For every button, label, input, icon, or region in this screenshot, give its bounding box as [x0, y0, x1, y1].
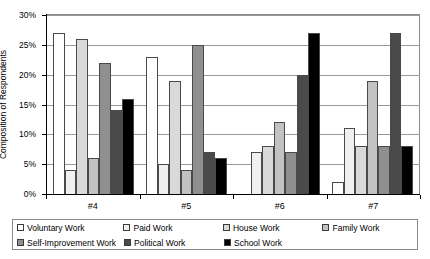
bar: [367, 81, 379, 194]
y-tick-label: 15%: [19, 100, 36, 109]
legend-row-1: Voluntary WorkPaid WorkHouse WorkFamily …: [13, 220, 417, 235]
legend-label: Voluntary Work: [27, 223, 84, 233]
bar: [88, 158, 100, 194]
bar: [262, 146, 274, 194]
bar: [99, 63, 111, 194]
legend-item[interactable]: Voluntary Work: [17, 223, 123, 233]
chart-legend: Voluntary WorkPaid WorkHouse WorkFamily …: [12, 219, 418, 250]
x-tick-label: #4: [46, 199, 140, 213]
legend-label: Family Work: [332, 223, 379, 233]
bar: [332, 182, 344, 194]
bar: [401, 146, 413, 194]
bar: [76, 39, 88, 194]
bar: [65, 170, 77, 194]
bar: [390, 33, 402, 194]
legend-label: Political Work: [134, 238, 185, 248]
x-tick-label: #5: [140, 199, 234, 213]
bar: [158, 164, 170, 194]
bar: [344, 128, 356, 194]
legend-item[interactable]: School Work: [224, 238, 324, 248]
legend-swatch-icon: [17, 224, 24, 231]
y-tick-label: 0%: [24, 190, 36, 199]
bar: [192, 45, 204, 194]
bar: [204, 152, 216, 194]
legend-swatch-icon: [123, 224, 130, 231]
legend-label: Self-Improvement Work: [27, 238, 116, 248]
legend-swatch-icon: [322, 224, 329, 231]
chart-page: Composition of Respondents 0%5%10%15%20%…: [0, 0, 430, 259]
x-tick-mark: [420, 195, 421, 199]
legend-item[interactable]: House Work: [223, 223, 323, 233]
legend-item[interactable]: Self-Improvement Work: [17, 238, 124, 248]
bar: [181, 170, 193, 194]
bar: [122, 99, 134, 194]
y-tick-label: 20%: [19, 70, 36, 79]
bar: [297, 75, 309, 194]
bar: [146, 57, 158, 194]
bar-group: [47, 15, 140, 194]
y-tick-label: 10%: [19, 130, 36, 139]
legend-label: House Work: [233, 223, 280, 233]
bar: [53, 33, 65, 194]
x-axis-tick-labels: #4#5#6#7: [46, 199, 420, 213]
bar: [215, 158, 227, 194]
legend-label: School Work: [234, 238, 282, 248]
bar: [378, 146, 390, 194]
legend-swatch-icon: [224, 239, 231, 246]
y-tick-label: 30%: [19, 11, 36, 20]
x-tick-label: #6: [233, 199, 327, 213]
legend-swatch-icon: [124, 239, 131, 246]
legend-row-2: Self-Improvement WorkPolitical WorkSchoo…: [13, 235, 417, 250]
plot-area: [46, 14, 420, 195]
legend-item[interactable]: Paid Work: [123, 223, 223, 233]
legend-swatch-icon: [17, 239, 24, 246]
y-axis-line: [46, 14, 47, 195]
bar: [251, 152, 263, 194]
bar: [111, 110, 123, 194]
bar: [355, 146, 367, 194]
legend-label: Paid Work: [133, 223, 172, 233]
y-tick-label: 5%: [24, 160, 36, 169]
y-axis-tick-labels: 0%5%10%15%20%25%30%: [0, 14, 42, 195]
bar: [308, 33, 320, 194]
bar: [285, 152, 297, 194]
bar: [274, 122, 286, 194]
legend-item[interactable]: Political Work: [124, 238, 224, 248]
bar-group: [140, 15, 233, 194]
legend-swatch-icon: [223, 224, 230, 231]
legend-item[interactable]: Family Work: [322, 223, 417, 233]
bar-groups: [47, 15, 419, 194]
bar-group: [233, 15, 326, 194]
bar-group: [326, 15, 419, 194]
y-tick-label: 25%: [19, 41, 36, 50]
x-tick-label: #7: [327, 199, 421, 213]
bar: [169, 81, 181, 194]
